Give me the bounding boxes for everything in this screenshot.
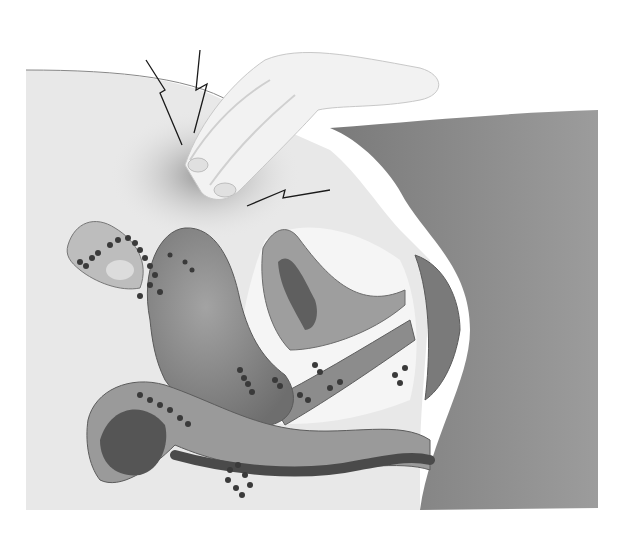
medical-illustration xyxy=(0,0,623,533)
pelvic-cross-section xyxy=(0,0,623,533)
ovary-follicle xyxy=(106,260,134,280)
